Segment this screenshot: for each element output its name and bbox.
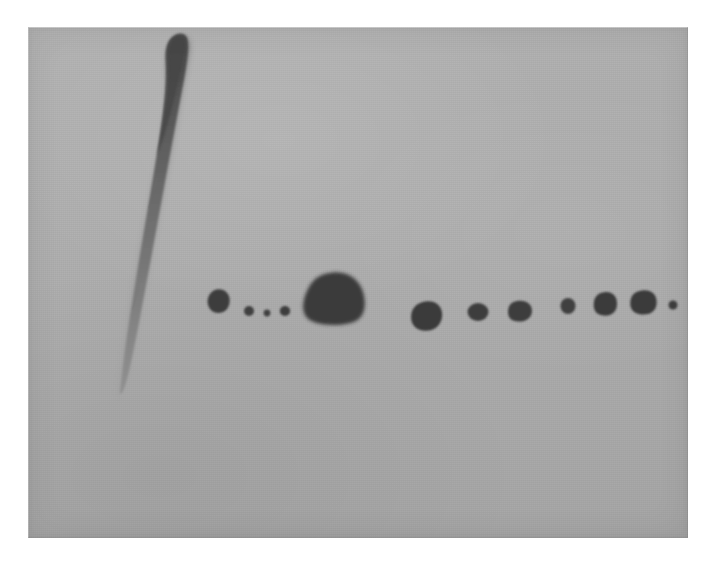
- vertical-brushstroke: [120, 33, 188, 394]
- blob-5: [303, 272, 365, 325]
- paint-marks-layer: [28, 27, 688, 538]
- blob-7: [468, 303, 489, 321]
- blob-10: [594, 292, 617, 316]
- blob-4: [280, 306, 290, 316]
- blob-11: [630, 290, 656, 314]
- blob-3: [264, 310, 271, 317]
- blob-9: [561, 298, 576, 314]
- row-of-blobs: [208, 272, 678, 331]
- blob-1: [208, 289, 230, 313]
- artwork-canvas: [28, 27, 688, 538]
- screenshot-page: Abstract painting on a flat gray ground:…: [0, 0, 717, 579]
- blob-2: [244, 306, 254, 316]
- blob-6: [411, 301, 442, 331]
- blob-12: [669, 301, 678, 310]
- blob-8: [508, 301, 532, 322]
- paint-marks-svg: [28, 27, 688, 538]
